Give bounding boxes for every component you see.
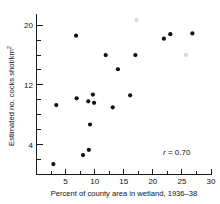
y-tick-label: 20	[24, 21, 33, 30]
data-point	[88, 122, 92, 126]
data-point	[104, 53, 108, 57]
data-point	[190, 31, 194, 35]
data-point	[184, 53, 188, 57]
data-point	[81, 153, 85, 157]
data-point	[74, 34, 78, 38]
data-point	[87, 148, 91, 152]
y-axis-minor-ticks	[37, 40, 41, 159]
data-point	[128, 93, 132, 97]
x-axis-tick-labels: 51015202530	[63, 177, 216, 186]
x-tick-label: 10	[90, 177, 99, 186]
data-point	[91, 93, 95, 97]
y-axis-title-text: Estimated no. cocks shot/km	[7, 49, 16, 146]
data-point	[133, 53, 137, 57]
data-point	[86, 99, 90, 103]
data-point	[51, 162, 55, 166]
y-axis-title: Estimated no. cocks shot/km2	[6, 46, 16, 146]
x-tick-label: 25	[177, 177, 186, 186]
y-axis-title-superscript: 2	[6, 46, 12, 49]
data-point-series	[51, 18, 194, 166]
x-tick-label: 15	[119, 177, 128, 186]
x-tick-label: 30	[207, 177, 216, 186]
correlation-value: = 0.70	[166, 148, 191, 157]
data-point	[134, 18, 138, 22]
x-tick-label: 5	[63, 177, 68, 186]
correlation-annotation: r = 0.70	[163, 148, 191, 157]
plot-canvas: 41220 51015202530 r = 0.70 Percent of co…	[0, 0, 220, 204]
data-point	[75, 96, 79, 100]
x-tick-label: 20	[148, 177, 157, 186]
data-point	[111, 105, 115, 109]
data-point	[92, 101, 96, 105]
x-axis-title: Percent of county area in wetland, 1936–…	[51, 189, 198, 198]
data-point	[168, 32, 172, 36]
y-tick-label: 12	[24, 81, 33, 90]
scatter-plot-figure: 41220 51015202530 r = 0.70 Percent of co…	[0, 0, 220, 204]
y-axis-tick-labels: 41220	[24, 21, 33, 149]
data-point	[116, 67, 120, 71]
y-axis-major-ticks	[37, 25, 43, 144]
data-point	[162, 37, 166, 41]
data-point	[54, 103, 58, 107]
y-tick-label: 4	[29, 141, 34, 150]
